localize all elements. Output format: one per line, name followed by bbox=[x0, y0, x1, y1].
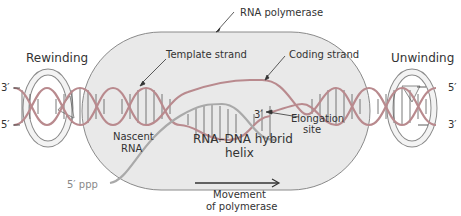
rna-polymerase-label: RNA polymerase bbox=[240, 7, 323, 18]
right-5prime-label: 5′ bbox=[448, 82, 457, 93]
left-3prime-label: 3′ bbox=[1, 82, 10, 93]
hybrid-helix-label-2: helix bbox=[225, 146, 254, 160]
movement-label: Movement bbox=[213, 189, 266, 200]
hybrid-helix-label: RNA–DNA hybrid bbox=[193, 132, 293, 146]
nascent-rna-label-2: RNA bbox=[121, 143, 142, 154]
nascent-rna-label: Nascent bbox=[113, 131, 154, 142]
unwinding-label: Unwinding bbox=[391, 51, 454, 65]
right-3prime-label: 3′ bbox=[448, 119, 457, 130]
coding-strand-label: Coding strand bbox=[289, 49, 359, 60]
rewinding-label: Rewinding bbox=[26, 51, 88, 65]
movement-label-2: of polymerase bbox=[206, 201, 277, 212]
elongation-site-label: Elongation bbox=[291, 113, 344, 124]
five-ppp-label: 5′ ppp bbox=[67, 179, 98, 190]
elongation-site-label-2: site bbox=[303, 124, 321, 135]
transcription-diagram: RNA polymerase Rewinding Unwinding Templ… bbox=[0, 0, 461, 216]
template-strand-label: Template strand bbox=[165, 49, 247, 60]
left-5prime-label: 5′ bbox=[1, 119, 10, 130]
rna-3prime-label: 3′ bbox=[254, 109, 263, 120]
unwinding-arrow-icon bbox=[390, 72, 434, 144]
